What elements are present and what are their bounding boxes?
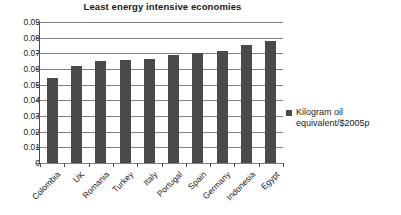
chart-legend: Kilogram oil equivalent/$2005p	[286, 107, 398, 129]
gridline	[40, 38, 283, 39]
y-axis-tick-label: 0.03	[6, 112, 40, 121]
y-axis-tick-label: 0.09	[6, 18, 40, 27]
y-axis-tick-label: 0.06	[6, 65, 40, 74]
x-axis-tick-mark	[40, 163, 41, 167]
legend-label: Kilogram oil equivalent/$2005p	[296, 107, 396, 129]
bar	[47, 78, 58, 163]
legend-swatch-icon	[286, 110, 292, 116]
plot-area	[40, 22, 283, 163]
bar	[144, 59, 155, 163]
bar	[95, 61, 106, 163]
y-axis-tick-label: 0.08	[6, 34, 40, 43]
y-axis-tick-label: 0.02	[6, 128, 40, 137]
y-axis-tick-label: 0.05	[6, 81, 40, 90]
gridline	[40, 22, 283, 23]
y-axis-tick-label: 0.07	[6, 49, 40, 58]
y-axis-tick-label: 0	[6, 159, 40, 168]
bar	[168, 55, 179, 163]
bar	[192, 53, 203, 163]
y-axis: 0.090.080.070.060.050.040.030.020.010	[0, 22, 40, 164]
y-axis-tick-label: 0.04	[6, 96, 40, 105]
y-axis-tick-label: 0.01	[6, 143, 40, 152]
chart-title: Least energy intensive economies	[40, 1, 285, 12]
bar-chart: Least energy intensive economies 0.090.0…	[0, 0, 401, 215]
bar	[217, 51, 228, 163]
